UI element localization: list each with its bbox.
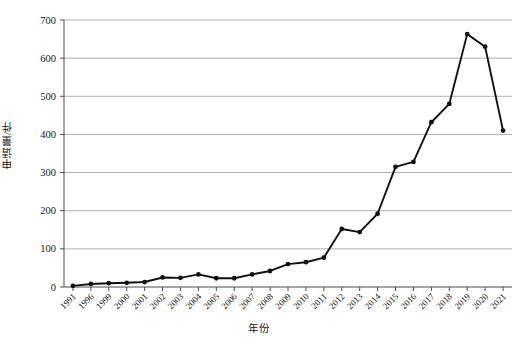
- data-point: [411, 159, 416, 164]
- data-points: [71, 32, 506, 289]
- x-tick-label: 2019: [452, 291, 472, 311]
- x-axis-tick-labels: 1991199619992000200120022003200420052006…: [58, 291, 508, 311]
- x-tick-label: 2000: [112, 291, 132, 311]
- y-tick-label: 100: [40, 243, 56, 254]
- x-tick-label: 2021: [488, 291, 508, 311]
- data-point: [106, 281, 111, 286]
- data-point: [178, 275, 183, 280]
- x-tick-label: 2012: [327, 291, 347, 311]
- y-tick-label: 300: [40, 167, 56, 178]
- x-tick-label: 2001: [130, 291, 150, 311]
- y-tick-label: 500: [40, 91, 56, 102]
- x-tick-label: 2008: [255, 291, 275, 311]
- y-tick-label: 200: [40, 205, 56, 216]
- x-tick-label: 2010: [291, 291, 311, 311]
- data-point: [196, 272, 201, 277]
- data-point: [214, 276, 219, 281]
- x-tick-label: 2003: [166, 291, 186, 311]
- y-axis-tick-labels: 0100200300400500600700: [40, 15, 56, 293]
- x-tick-label: 2013: [345, 291, 365, 311]
- x-tick-label: 2002: [148, 291, 168, 311]
- x-tick-label: 2016: [399, 291, 419, 311]
- x-axis-ticks: [73, 287, 503, 291]
- data-line: [73, 34, 503, 286]
- data-point: [250, 272, 255, 277]
- line-chart: 申请量/件 年份 1991199619992000200120022003200…: [0, 0, 526, 344]
- data-point: [465, 32, 470, 37]
- x-tick-label: 2020: [470, 291, 490, 311]
- y-axis-ticks: [60, 20, 64, 287]
- x-tick-label: 1996: [76, 291, 96, 311]
- x-tick-label: 2007: [237, 291, 257, 311]
- x-tick-label: 2005: [201, 291, 221, 311]
- gridlines: [64, 20, 512, 249]
- x-tick-label: 2015: [381, 291, 401, 311]
- data-point: [88, 282, 93, 287]
- data-point: [447, 102, 452, 107]
- data-point: [71, 283, 76, 288]
- plot-area: 1991199619992000200120022003200420052006…: [0, 0, 526, 344]
- data-point: [501, 128, 506, 133]
- x-tick-label: 2009: [273, 291, 293, 311]
- x-tick-label: 2004: [184, 291, 204, 311]
- x-tick-label: 2017: [416, 291, 436, 311]
- data-point: [321, 255, 326, 260]
- data-point: [142, 280, 147, 285]
- x-tick-label: 2018: [434, 291, 454, 311]
- y-tick-label: 600: [40, 53, 56, 64]
- x-tick-label: 2011: [309, 291, 329, 311]
- axis-lines: [64, 20, 512, 287]
- data-point: [232, 276, 237, 281]
- data-point: [339, 227, 344, 232]
- x-tick-label: 2014: [363, 291, 383, 311]
- x-tick-label: 2006: [219, 291, 239, 311]
- series-polyline: [73, 34, 503, 286]
- data-point: [357, 230, 362, 235]
- data-point: [393, 164, 398, 169]
- data-point: [124, 280, 129, 285]
- y-tick-label: 400: [40, 129, 56, 140]
- data-point: [375, 211, 380, 216]
- x-tick-label: 1991: [58, 291, 78, 311]
- data-point: [268, 269, 273, 274]
- data-point: [483, 44, 488, 49]
- data-point: [304, 260, 309, 265]
- y-tick-label: 0: [51, 282, 56, 293]
- data-point: [429, 120, 434, 125]
- data-point: [286, 262, 291, 267]
- x-tick-label: 1999: [94, 291, 114, 311]
- data-point: [160, 275, 165, 280]
- y-tick-label: 700: [40, 15, 56, 26]
